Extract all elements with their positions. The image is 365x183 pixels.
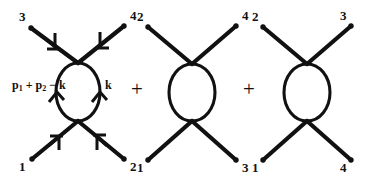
diagram-1-loop-right-momentum: k: [105, 79, 112, 91]
plus-operator-2: +: [243, 79, 255, 100]
diagram-3-endpoint-top-right: [348, 23, 353, 28]
diagram-3-loop-arc-left: [284, 64, 307, 121]
diagram-2-endpoint-top-right: [233, 23, 238, 28]
diagram-2-label-top-right: 4: [242, 9, 249, 22]
diagram-1-loop-left-momentum: p1 + p2 − k: [12, 79, 66, 91]
diagram-1-label-top-right: 4: [130, 9, 137, 22]
diagram-1-label-top-left: 3: [19, 10, 26, 23]
diagram-2-loop-arc-left: [169, 64, 192, 121]
diagram-2-leg-top-left: [148, 27, 192, 64]
diagram-1-endpoint-bottom-left: [29, 156, 34, 161]
diagram-1-endpoint-top-left: [28, 25, 33, 30]
diagram-3-endpoint-top-left: [260, 24, 265, 29]
diagram-3-leg-bottom-left: [263, 121, 307, 160]
diagram-2-label-bottom-left: 1: [137, 161, 144, 174]
diagram-3-label-top-left: 2: [252, 10, 259, 23]
diagram-2-loop-arc-right: [192, 64, 215, 121]
diagram-3-label-top-right: 3: [340, 9, 347, 22]
diagram-2-label-bottom-right: 3: [242, 161, 249, 174]
diagram-1-endpoint-bottom-right: [121, 156, 126, 161]
diagram-3-loop-arc-right: [307, 64, 330, 121]
diagram-2-endpoint-top-left: [145, 24, 150, 29]
diagram-1-loop-arc-right: [78, 63, 100, 121]
diagram-2-endpoint-bottom-right: [233, 157, 238, 162]
diagram-2-label-top-left: 2: [137, 10, 144, 23]
diagram-2-leg-bottom-right: [192, 121, 236, 160]
diagram-2-leg-bottom-left: [148, 121, 192, 160]
diagram-2-leg-top-right: [192, 26, 236, 64]
diagram-1-loop-arc-left: [56, 63, 78, 121]
diagram-3-endpoint-bottom-right: [348, 157, 353, 162]
diagram-1-endpoint-top-right: [121, 23, 126, 28]
feynman-diagram-figure: 3 4 1 2 p1 + p2 − k k + 2 4 1 3 + 2 3 1 …: [0, 0, 365, 183]
diagram-3-leg-top-right: [307, 26, 351, 64]
diagram-3-label-bottom-right: 4: [340, 161, 347, 174]
diagram-3-leg-bottom-right: [307, 121, 351, 160]
diagram-3-label-bottom-left: 1: [252, 161, 259, 174]
diagram-3-group: [260, 23, 353, 162]
diagram-2-group: [145, 23, 238, 162]
diagram-1-label-bottom-left: 1: [19, 160, 26, 173]
plus-operator-1: +: [131, 79, 143, 100]
diagram-3-endpoint-bottom-left: [260, 157, 265, 162]
diagram-3-leg-top-left: [263, 27, 307, 64]
diagram-2-endpoint-bottom-left: [145, 157, 150, 162]
diagram-1-label-bottom-right: 2: [130, 160, 137, 173]
